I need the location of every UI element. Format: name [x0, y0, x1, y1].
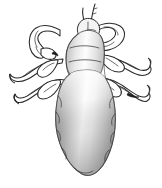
louse-drawing-canvas	[0, 0, 162, 188]
louse-illustration: Black and white scientific illustration …	[0, 0, 162, 188]
